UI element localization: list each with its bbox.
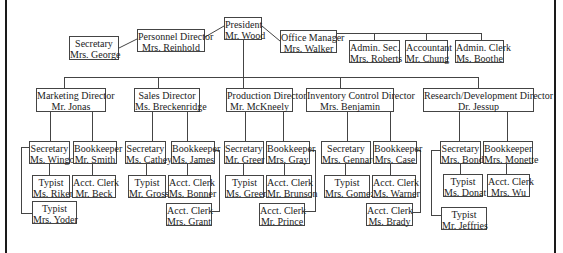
- org-node-acct-clerk-bonner: Acct. ClerkMs. Bonner: [168, 175, 211, 198]
- node-person-name: Ms. Warner: [373, 188, 415, 199]
- node-title: Typist: [226, 177, 263, 188]
- node-person-name: Mr. Prince: [260, 216, 304, 227]
- org-node-secretary-greer: SecretaryMr. Greer: [224, 141, 264, 164]
- node-person-name: Mrs. Grant: [167, 216, 211, 227]
- node-person-name: Ms. James: [172, 154, 214, 165]
- org-node-typist-gomez: TypistMrs. Gomez: [324, 175, 370, 198]
- org-node-acct-clerk-brady: Acct. ClerkMs. Brady: [366, 203, 413, 226]
- node-person-name: Mr. Brunson: [267, 188, 311, 199]
- org-node-accountant-chung: AccountantMr. Chung: [405, 40, 448, 63]
- node-title: Accountant: [406, 42, 447, 53]
- node-title: Secretary: [30, 143, 69, 154]
- node-title: Acct. Clerk: [260, 205, 304, 216]
- node-title: Acct. Clerk: [73, 177, 115, 188]
- node-person-name: Ms. Brady: [367, 216, 412, 227]
- org-node-typist-donat: TypistMs. Donat: [443, 174, 483, 197]
- org-chart-canvas: PresidentMr. WoodPersonnel DirectorMrs. …: [0, 0, 563, 253]
- node-person-name: Mrs. Gomez: [325, 188, 369, 199]
- node-person-name: Mrs. Yoder: [33, 214, 76, 225]
- node-title: Secretary: [70, 38, 118, 49]
- node-person-name: Ms. Cathey: [126, 154, 165, 165]
- org-node-personnel-director: Personnel DirectorMrs. Reinhold: [137, 29, 205, 52]
- org-node-bookkeeper-gray: BookkeeperMrs. Gray: [266, 141, 310, 164]
- node-person-name: Mr. Beck: [73, 188, 115, 199]
- node-title: Acct. Clerk: [488, 176, 529, 187]
- node-person-name: Mr. Jonas: [37, 101, 105, 112]
- node-person-name: Mr. Chung: [406, 53, 447, 64]
- node-person-name: Ms. Breckenridge: [135, 101, 199, 112]
- org-node-admin-sec-roberts: Admin. Sec.Mrs. Roberts: [349, 40, 400, 63]
- node-title: Acct. Clerk: [373, 177, 415, 188]
- node-title: Acct. Clerk: [267, 177, 311, 188]
- org-node-typist-yoder: TypistMrs. Yoder: [32, 201, 77, 224]
- node-person-name: Mrs. Benjamin: [307, 101, 393, 112]
- node-person-name: Mrs. Reinhold: [138, 42, 204, 53]
- node-title: Office Manager: [281, 32, 336, 43]
- org-node-rd-director: Research/Development DirectorDr. Jessup: [423, 88, 534, 112]
- org-node-production-director: Production DirectorMr. McKneely: [226, 88, 293, 112]
- org-node-inventory-director: Inventory Control DirectorMrs. Benjamin: [306, 88, 394, 112]
- org-node-acct-clerk-grant: Acct. ClerkMrs. Grant: [166, 203, 212, 226]
- node-title: Marketing Director: [37, 90, 105, 101]
- org-node-secretary-george: SecretaryMrs. George: [69, 36, 119, 60]
- node-title: Bookkeeper: [172, 143, 214, 154]
- node-person-name: Ms. Riker: [33, 188, 69, 199]
- node-person-name: Mr. Wood: [225, 30, 261, 41]
- node-title: Secretary: [225, 143, 263, 154]
- org-node-bookkeeper-james: BookkeeperMs. James: [171, 141, 215, 164]
- node-title: Bookkeeper: [74, 143, 116, 154]
- node-title: Research/Development Director: [424, 90, 533, 101]
- org-node-secretary-bond: SecretaryMrs. Bond: [440, 141, 481, 164]
- node-title: Production Director: [227, 90, 292, 101]
- node-person-name: Mr. McKneely: [227, 101, 292, 112]
- org-node-admin-clerk-boothe: Admin. ClerkMs. Boothe: [455, 40, 504, 63]
- node-title: Typist: [325, 177, 369, 188]
- node-title: Typist: [129, 177, 165, 188]
- node-title: Admin. Sec.: [350, 42, 399, 53]
- node-title: Typist: [444, 176, 482, 187]
- node-person-name: Mrs. Case: [374, 154, 416, 165]
- org-node-bookkeeper-monette: BookkeeperMrs. Monette: [483, 141, 533, 164]
- org-node-president: PresidentMr. Wood: [224, 17, 262, 40]
- node-person-name: Mr. Smith: [74, 154, 116, 165]
- node-title: Bookkeeper: [267, 143, 309, 154]
- node-title: Personnel Director: [138, 31, 204, 42]
- org-node-secretary-gennaro: SecretaryMrs. Gennaro: [321, 141, 371, 164]
- node-title: Acct. Clerk: [169, 177, 210, 188]
- node-person-name: Mrs. Wu: [488, 187, 529, 198]
- org-node-bookkeeper-smith: BookkeeperMr. Smith: [73, 141, 117, 164]
- node-person-name: Mrs. George: [70, 49, 118, 60]
- node-title: Bookkeeper: [374, 143, 416, 154]
- node-person-name: Mrs. Walker: [281, 43, 336, 54]
- edge-personnel-secretary: [119, 39, 137, 48]
- org-node-acct-clerk-wu: Acct. ClerkMrs. Wu: [487, 174, 530, 197]
- org-node-acct-clerk-beck: Acct. ClerkMr. Beck: [72, 175, 116, 198]
- node-title: Sales Director: [135, 90, 199, 101]
- org-node-acct-clerk-warner: Acct. ClerkMs. Warner: [372, 175, 416, 198]
- node-person-name: Mr. Gross: [129, 188, 165, 199]
- org-node-secretary-cathey: SecretaryMs. Cathey: [125, 141, 166, 164]
- node-person-name: Dr. Jessup: [424, 101, 533, 112]
- node-person-name: Mrs. Bond: [441, 154, 480, 165]
- node-title: Admin. Clerk: [456, 42, 503, 53]
- node-title: Acct. Clerk: [367, 205, 412, 216]
- node-person-name: Mrs. Gennaro: [322, 154, 370, 165]
- org-node-secretary-wingo: SecretaryMs. Wingo: [29, 141, 70, 164]
- org-node-bookkeeper-case: BookkeeperMrs. Case: [373, 141, 417, 164]
- node-title: Typist: [33, 203, 76, 214]
- node-person-name: Mr. Jeffries: [442, 220, 486, 231]
- org-node-acct-clerk-prince: Acct. ClerkMr. Prince: [259, 203, 305, 226]
- org-node-acct-clerk-brunson: Acct. ClerkMr. Brunson: [266, 175, 312, 198]
- org-node-sales-director: Sales DirectorMs. Breckenridge: [134, 88, 200, 112]
- node-person-name: Mrs. Monette: [484, 154, 532, 165]
- node-title: Secretary: [126, 143, 165, 154]
- org-node-typist-gross: TypistMr. Gross: [128, 175, 166, 198]
- node-person-name: Ms. Wingo: [30, 154, 69, 165]
- node-title: Bookkeeper: [484, 143, 532, 154]
- node-title: Typist: [33, 177, 69, 188]
- org-node-typist-jeffries: TypistMr. Jeffries: [441, 207, 487, 230]
- node-title: Secretary: [441, 143, 480, 154]
- org-node-typist-green: TypistMs. Green: [225, 175, 264, 198]
- node-person-name: Ms. Bonner: [169, 188, 210, 199]
- node-person-name: Mr. Greer: [225, 154, 263, 165]
